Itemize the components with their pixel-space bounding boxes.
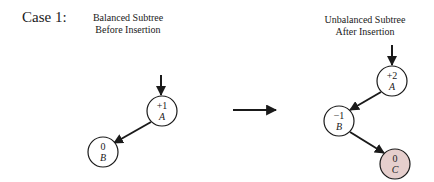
node-c-label: C [392,164,399,175]
before-tree: +1 A 0 B [88,75,177,167]
node-a-label: A [388,81,396,92]
after-tree: +2 A −1 B 0 C [324,45,410,179]
node-b-balance: 0 [101,141,106,152]
node-b-label: B [336,121,342,132]
node-a: +1 A [147,96,177,126]
node-b-balance: −1 [334,110,345,121]
node-c-balance: 0 [393,153,398,164]
node-a-balance: +2 [387,70,398,81]
avl-diagram: +1 A 0 B +2 A −1 B 0 C [0,0,434,182]
node-a-balance: +1 [157,100,168,111]
edge-a-b [114,122,151,143]
node-b: −1 B [324,106,354,136]
node-c-inserted: 0 C [380,149,410,179]
edge-a-b [350,92,381,110]
node-b-label: B [100,152,106,163]
node-b: 0 B [88,137,118,167]
node-a: +2 A [377,66,407,96]
edge-b-c [350,132,384,153]
node-a-label: A [158,111,166,122]
